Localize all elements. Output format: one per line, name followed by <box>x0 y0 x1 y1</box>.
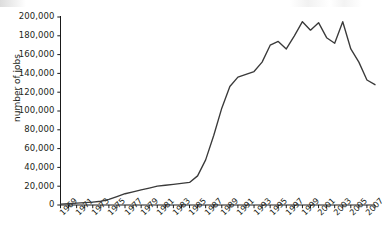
axis-lines <box>61 16 376 205</box>
chart-figure: number of jobs 020,00040,00060,00080,000… <box>0 0 392 246</box>
plot-area <box>0 0 392 246</box>
data-line-series-jobs <box>61 22 376 204</box>
